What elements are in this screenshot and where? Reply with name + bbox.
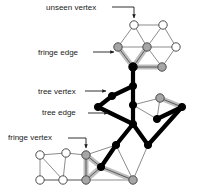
label-tree-edge: tree edge bbox=[42, 108, 76, 117]
tree-edges bbox=[98, 67, 182, 167]
vertex-tree bbox=[129, 120, 136, 127]
graph-diagram bbox=[0, 0, 199, 194]
vertex-fringe bbox=[82, 176, 90, 184]
vertex-fringe bbox=[114, 43, 122, 51]
vertex-fringe bbox=[129, 176, 137, 184]
vertex-unseen bbox=[36, 176, 44, 184]
vertex-tree bbox=[129, 63, 137, 71]
vertex-tree bbox=[108, 92, 115, 99]
label-fringe-edge: fringe edge bbox=[38, 48, 78, 57]
vertex-tree bbox=[129, 82, 136, 89]
vertex-tree bbox=[97, 163, 104, 170]
vertex-tree bbox=[94, 103, 101, 110]
vertex-fringe bbox=[82, 151, 90, 159]
vertex-fringe bbox=[158, 63, 166, 71]
label-unseen-vertex: unseen vertex bbox=[46, 3, 96, 12]
vertex-unseen bbox=[36, 151, 44, 159]
vertex-unseen bbox=[59, 176, 67, 184]
fringe-edge bbox=[101, 167, 133, 180]
vertex-unseen bbox=[159, 21, 167, 29]
vertex-fringe bbox=[143, 43, 151, 51]
vertex-unseen bbox=[62, 149, 70, 157]
vertex-unseen bbox=[172, 43, 180, 51]
leader-lines bbox=[68, 7, 134, 148]
vertex-tree bbox=[129, 101, 136, 108]
vertex-tree bbox=[153, 115, 160, 122]
vertex-tree bbox=[144, 141, 151, 148]
vertex-fringe bbox=[156, 94, 164, 102]
unseen-edge bbox=[133, 105, 157, 119]
vertex-unseen bbox=[130, 21, 138, 29]
label-tree-vertex: tree vertex bbox=[38, 87, 76, 96]
leader-fringe-vertex bbox=[68, 138, 86, 148]
vertex-tree bbox=[178, 103, 185, 110]
label-fringe-vertex: fringe vertex bbox=[8, 133, 52, 142]
vertex-tree bbox=[112, 141, 119, 148]
leader-unseen-vertex bbox=[112, 7, 134, 18]
unseen-edge bbox=[133, 145, 148, 180]
unseen-edge bbox=[40, 155, 63, 180]
tree-edge bbox=[148, 107, 182, 145]
tree-edge bbox=[98, 107, 133, 124]
